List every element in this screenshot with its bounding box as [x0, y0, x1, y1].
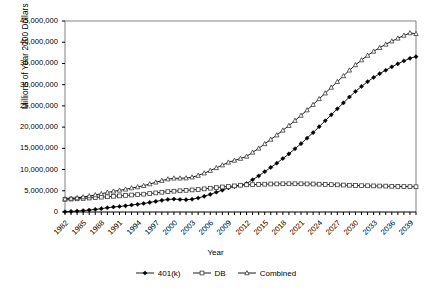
data-point-marker [293, 182, 297, 186]
data-point-marker [117, 204, 121, 208]
data-point-marker [396, 36, 400, 40]
data-point-marker [390, 65, 394, 69]
series-combined [63, 31, 418, 201]
data-point-marker [123, 204, 127, 208]
data-point-marker [99, 191, 103, 195]
data-point-marker [160, 198, 164, 202]
data-point-marker [317, 182, 321, 186]
data-point-marker [202, 171, 206, 175]
legend-label: 401(k) [157, 269, 181, 278]
data-point-marker [366, 184, 370, 188]
data-point-marker [81, 195, 85, 199]
data-point-marker [184, 176, 188, 180]
series-db [63, 182, 418, 201]
data-point-marker [142, 192, 146, 196]
data-point-marker [402, 185, 406, 189]
data-point-marker [123, 187, 127, 191]
data-point-marker [172, 197, 176, 201]
data-point-marker [196, 188, 200, 192]
data-point-marker [214, 165, 218, 169]
data-point-marker [384, 42, 388, 46]
data-point-marker [184, 198, 188, 202]
legend-marker-open-triangle-icon [237, 268, 257, 278]
data-point-marker [281, 128, 285, 132]
data-point-marker [239, 183, 243, 187]
data-point-marker [220, 163, 224, 167]
data-point-marker [129, 203, 133, 207]
data-point-marker [402, 33, 406, 37]
data-point-marker [111, 189, 115, 193]
retirement-assets-line-chart: Millions of Year 2000 Dollars 45,000,000… [0, 0, 431, 292]
data-point-marker [154, 180, 158, 184]
data-point-marker [208, 192, 212, 196]
data-point-marker [232, 158, 236, 162]
data-point-marker [172, 189, 176, 193]
data-point-marker [263, 182, 267, 186]
data-point-marker [87, 194, 91, 198]
data-point-marker [190, 175, 194, 179]
data-point-marker [238, 156, 242, 160]
data-point-marker [124, 194, 128, 198]
data-point-marker [172, 176, 176, 180]
data-point-marker [63, 210, 67, 214]
data-point-marker [251, 178, 255, 182]
data-point-marker [287, 182, 291, 186]
data-point-marker [305, 182, 309, 186]
data-point-marker [136, 202, 140, 206]
data-point-marker [135, 185, 139, 189]
data-point-marker [335, 183, 339, 187]
data-point-marker [214, 186, 218, 190]
data-point-marker [408, 185, 412, 189]
chart-legend: 401(k)DBCombined [0, 268, 431, 278]
legend-item-401-k-[interactable]: 401(k) [135, 268, 181, 278]
data-point-marker [384, 184, 388, 188]
data-point-marker [75, 196, 79, 200]
data-point-marker [141, 183, 145, 187]
data-point-marker [202, 187, 206, 191]
data-point-marker [244, 154, 248, 158]
data-point-marker [178, 189, 182, 193]
legend-item-db[interactable]: DB [192, 268, 226, 278]
data-point-marker [281, 182, 285, 186]
data-point-marker [311, 182, 315, 186]
data-point-marker [378, 184, 382, 188]
data-point-marker [396, 62, 400, 66]
data-point-marker [105, 195, 109, 199]
data-point-marker [166, 177, 170, 181]
data-point-marker [136, 193, 140, 197]
data-point-marker [402, 59, 406, 63]
data-point-marker [372, 184, 376, 188]
data-point-marker [154, 191, 158, 195]
data-point-marker [93, 193, 97, 197]
series-401-k- [63, 55, 418, 214]
data-point-marker [299, 182, 303, 186]
data-point-marker [390, 39, 394, 43]
data-point-marker [129, 186, 133, 190]
series-line [65, 33, 416, 199]
data-point-marker [323, 183, 327, 187]
legend-item-combined[interactable]: Combined [237, 268, 296, 278]
data-point-marker [93, 207, 97, 211]
data-point-marker [359, 58, 363, 62]
data-point-marker [226, 160, 230, 164]
data-point-marker [384, 68, 388, 72]
data-point-marker [220, 185, 224, 189]
data-point-marker [166, 190, 170, 194]
data-point-marker [154, 199, 158, 203]
legend-marker-filled-diamond-icon [135, 268, 155, 278]
data-point-marker [341, 183, 345, 187]
data-point-marker [263, 141, 267, 145]
data-point-marker [245, 183, 249, 187]
data-point-marker [329, 183, 333, 187]
data-point-marker [143, 271, 147, 275]
data-point-marker [178, 176, 182, 180]
data-point-marker [275, 182, 279, 186]
data-point-marker [178, 197, 182, 201]
data-point-marker [251, 183, 255, 187]
data-point-marker [269, 137, 273, 141]
data-point-marker [117, 188, 121, 192]
data-point-marker [414, 31, 418, 35]
data-point-marker [142, 201, 146, 205]
data-point-marker [371, 49, 375, 53]
data-point-marker [200, 271, 204, 275]
